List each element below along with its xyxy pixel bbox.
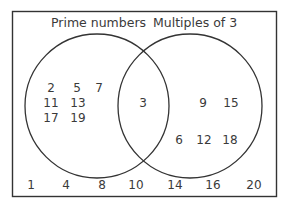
- element: 7: [95, 81, 103, 95]
- element: 8: [98, 178, 106, 192]
- element: 15: [223, 96, 238, 110]
- element: 4: [62, 178, 70, 192]
- element: 17: [43, 111, 58, 125]
- element: 1: [27, 178, 35, 192]
- element: 10: [128, 178, 143, 192]
- element: 19: [70, 111, 85, 125]
- element: 9: [199, 96, 207, 110]
- element: 2: [47, 81, 55, 95]
- set-b-label: Multiples of 3: [153, 16, 237, 30]
- element: 18: [222, 133, 237, 147]
- element: 16: [205, 178, 220, 192]
- element: 5: [73, 81, 81, 95]
- element: 20: [246, 178, 261, 192]
- element: 12: [196, 133, 211, 147]
- element: 14: [167, 178, 182, 192]
- element: 11: [43, 96, 58, 110]
- element: 6: [175, 133, 183, 147]
- element: 3: [139, 96, 147, 110]
- element: 13: [70, 96, 85, 110]
- set-a-label: Prime numbers: [51, 16, 146, 30]
